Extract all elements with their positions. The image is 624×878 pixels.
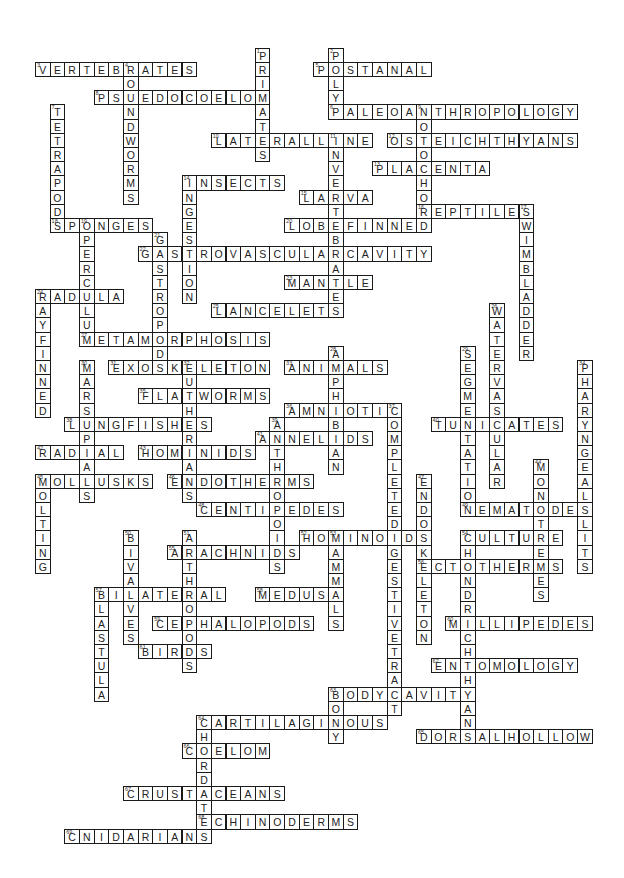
crossword-cell[interactable]: A (387, 672, 403, 687)
crossword-cell[interactable]: S (577, 616, 593, 631)
crossword-cell[interactable]: D (548, 616, 564, 631)
crossword-cell[interactable]: H (460, 644, 476, 659)
crossword-cell[interactable]: T (489, 332, 505, 347)
crossword-cell[interactable]: T (460, 459, 476, 474)
crossword-cell[interactable]: N (416, 630, 432, 645)
crossword-cell[interactable]: E (269, 587, 285, 602)
crossword-cell[interactable]: T (445, 559, 461, 574)
crossword-cell[interactable]: 20L (284, 218, 300, 233)
crossword-cell[interactable]: L (79, 303, 95, 318)
crossword-cell[interactable]: O (416, 119, 432, 134)
crossword-cell[interactable]: U (94, 474, 110, 489)
crossword-cell[interactable]: S (196, 829, 212, 844)
crossword-cell[interactable]: S (255, 388, 271, 403)
crossword-cell[interactable]: T (255, 175, 271, 190)
crossword-cell[interactable]: R (79, 388, 95, 403)
crossword-cell[interactable]: L (299, 246, 315, 261)
crossword-cell[interactable]: E (123, 218, 139, 233)
crossword-cell[interactable]: I (431, 687, 447, 702)
crossword-cell[interactable]: M (299, 403, 315, 418)
crossword-cell[interactable]: E (167, 62, 183, 77)
crossword-cell[interactable]: H (269, 459, 285, 474)
crossword-cell[interactable]: B (313, 218, 329, 233)
crossword-cell[interactable]: O (269, 488, 285, 503)
crossword-cell[interactable]: S (196, 644, 212, 659)
crossword-cell[interactable]: S (299, 474, 315, 489)
crossword-cell[interactable]: R (79, 261, 95, 276)
crossword-cell[interactable]: D (401, 530, 417, 545)
crossword-cell[interactable]: N (35, 374, 51, 389)
crossword-cell[interactable]: L (548, 729, 564, 744)
crossword-cell[interactable]: T (328, 275, 344, 290)
crossword-cell[interactable]: L (489, 445, 505, 460)
crossword-cell[interactable]: 25L (211, 303, 227, 318)
crossword-cell[interactable]: A (489, 459, 505, 474)
crossword-cell[interactable]: I (577, 530, 593, 545)
crossword-cell[interactable]: 35F (138, 388, 154, 403)
crossword-cell[interactable]: 29S (460, 346, 476, 361)
crossword-cell[interactable]: H (182, 573, 198, 588)
crossword-cell[interactable]: I (328, 431, 344, 446)
crossword-cell[interactable]: H (460, 672, 476, 687)
crossword-cell[interactable]: 65D (416, 729, 432, 744)
crossword-cell[interactable]: I (255, 545, 271, 560)
crossword-cell[interactable]: L (343, 275, 359, 290)
crossword-cell[interactable]: L (284, 303, 300, 318)
crossword-cell[interactable]: S (533, 587, 549, 602)
crossword-cell[interactable]: G (108, 417, 124, 432)
crossword-cell[interactable]: 15L (299, 190, 315, 205)
crossword-cell[interactable]: A (211, 715, 227, 730)
crossword-cell[interactable]: 63B (328, 687, 344, 702)
crossword-cell[interactable]: D (226, 445, 242, 460)
crossword-cell[interactable]: E (401, 218, 417, 233)
crossword-cell[interactable]: H (196, 616, 212, 631)
crossword-cell[interactable]: T (50, 133, 66, 148)
crossword-cell[interactable]: S (577, 502, 593, 517)
crossword-cell[interactable]: D (64, 289, 80, 304)
crossword-cell[interactable]: 54C (460, 530, 476, 545)
crossword-cell[interactable]: N (313, 403, 329, 418)
crossword-cell[interactable]: I (343, 530, 359, 545)
crossword-cell[interactable]: U (79, 317, 95, 332)
crossword-cell[interactable]: T (240, 133, 256, 148)
crossword-cell[interactable]: L (416, 62, 432, 77)
crossword-cell[interactable]: E (489, 346, 505, 361)
crossword-cell[interactable]: O (182, 630, 198, 645)
crossword-cell[interactable]: T (445, 687, 461, 702)
crossword-cell[interactable]: V (123, 559, 139, 574)
crossword-cell[interactable]: O (416, 516, 432, 531)
crossword-cell[interactable]: E (255, 133, 271, 148)
crossword-cell[interactable]: 56E (416, 559, 432, 574)
crossword-cell[interactable]: E (299, 431, 315, 446)
crossword-cell[interactable]: 62E (431, 658, 447, 673)
crossword-cell[interactable]: I (79, 445, 95, 460)
crossword-cell[interactable]: E (519, 332, 535, 347)
crossword-cell[interactable]: R (269, 133, 285, 148)
crossword-cell[interactable]: 41A (255, 431, 271, 446)
crossword-cell[interactable]: 43H (138, 445, 154, 460)
crossword-cell[interactable]: 69C (64, 829, 80, 844)
crossword-cell[interactable]: A (211, 616, 227, 631)
crossword-cell[interactable]: N (313, 275, 329, 290)
crossword-cell[interactable]: H (226, 814, 242, 829)
crossword-cell[interactable]: T (577, 545, 593, 560)
crossword-cell[interactable]: K (123, 474, 139, 489)
crossword-cell[interactable]: 1P (255, 48, 271, 63)
crossword-cell[interactable]: A (79, 374, 95, 389)
crossword-cell[interactable]: S (123, 190, 139, 205)
crossword-cell[interactable]: I (372, 403, 388, 418)
crossword-cell[interactable]: T (519, 502, 535, 517)
crossword-cell[interactable]: R (519, 346, 535, 361)
crossword-cell[interactable]: T (182, 559, 198, 574)
crossword-cell[interactable]: 8P (94, 90, 110, 105)
crossword-cell[interactable]: N (387, 218, 403, 233)
crossword-cell[interactable]: H (226, 545, 242, 560)
crossword-cell[interactable]: 4R (123, 62, 139, 77)
crossword-cell[interactable]: I (182, 261, 198, 276)
crossword-cell[interactable]: S (269, 175, 285, 190)
crossword-cell[interactable]: A (504, 417, 520, 432)
crossword-cell[interactable]: I (269, 530, 285, 545)
crossword-cell[interactable]: W (196, 388, 212, 403)
crossword-cell[interactable]: R (196, 758, 212, 773)
crossword-cell[interactable]: N (284, 431, 300, 446)
